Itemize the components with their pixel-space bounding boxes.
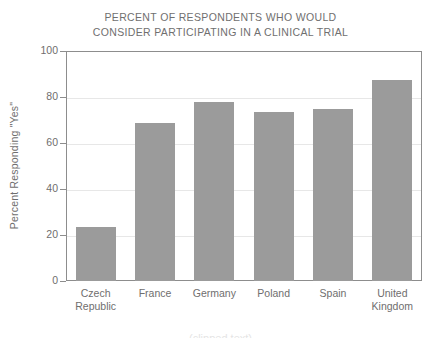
bar[interactable]	[194, 102, 234, 281]
x-tick-label: Germany	[185, 287, 244, 300]
y-axis-tick-labels: 020406080100	[0, 0, 58, 338]
x-tick-label-line: Spain	[303, 287, 362, 300]
bar-slot	[254, 51, 294, 281]
y-tick-label-0: 0	[6, 275, 58, 286]
bar[interactable]	[135, 123, 175, 281]
bar[interactable]	[372, 80, 412, 281]
x-tick-label: France	[125, 287, 184, 300]
chart-title-line-1: PERCENT OF RESPONDENTS WHO WOULD	[0, 10, 441, 25]
x-tick-label: CzechRepublic	[66, 287, 125, 313]
chart-title-line-2: CONSIDER PARTICIPATING IN A CLINICAL TRI…	[0, 25, 441, 40]
y-tick-0	[60, 281, 66, 282]
bar-slot	[194, 51, 234, 281]
x-tick-label-line: Poland	[244, 287, 303, 300]
bar[interactable]	[254, 112, 294, 281]
x-tick-label-line: Czech	[66, 287, 125, 300]
x-tick-label: UnitedKingdom	[363, 287, 422, 313]
x-tick-label-line: France	[125, 287, 184, 300]
x-tick-label-line: Germany	[185, 287, 244, 300]
y-tick-label-80: 80	[6, 91, 58, 102]
x-tick-label-line: Republic	[66, 300, 125, 313]
x-tick-label: Spain	[303, 287, 362, 300]
x-tick-label-line: Kingdom	[363, 300, 422, 313]
bar-series	[66, 51, 422, 281]
bar-slot	[372, 51, 412, 281]
bottom-clipped-text: (clipped text)	[0, 332, 441, 338]
x-tick-label: Poland	[244, 287, 303, 300]
chart-title: PERCENT OF RESPONDENTS WHO WOULD CONSIDE…	[0, 10, 441, 40]
y-tick-label-60: 60	[6, 137, 58, 148]
bar[interactable]	[313, 109, 353, 282]
y-tick-label-40: 40	[6, 183, 58, 194]
x-tick-label-line: United	[363, 287, 422, 300]
bar-chart-figure: PERCENT OF RESPONDENTS WHO WOULD CONSIDE…	[0, 0, 441, 338]
y-tick-label-20: 20	[6, 229, 58, 240]
bar-slot	[313, 51, 353, 281]
bar-slot	[135, 51, 175, 281]
x-axis-tick-labels: CzechRepublicFranceGermanyPolandSpainUni…	[66, 287, 422, 327]
bar[interactable]	[76, 227, 116, 281]
y-tick-label-100: 100	[6, 45, 58, 56]
bar-slot	[76, 51, 116, 281]
